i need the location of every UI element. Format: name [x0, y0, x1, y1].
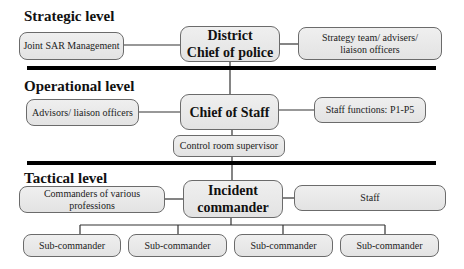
control-room-supervisor-box: Control room supervisor	[173, 135, 285, 157]
strategic-level-title: Strategic level	[24, 8, 114, 24]
district-chief-line1: District	[207, 27, 252, 44]
sub-commander-box-1: Sub-commander	[23, 234, 121, 257]
operational-level-title: Operational level	[24, 78, 134, 94]
incident-commander-line1: Incident	[208, 182, 258, 199]
chief-of-staff-label: Chief of Staff	[189, 104, 269, 121]
advisors-liaison-officers-box: Advisors/ liaison officers	[26, 99, 139, 126]
district-chief-line2: Chief of police	[187, 44, 273, 61]
commanders-various-professions-box: Commanders of various professions	[19, 186, 165, 213]
advisors-liaison-officers-label: Advisors/ liaison officers	[32, 107, 133, 119]
sub-commander-label: Sub-commander	[250, 240, 316, 252]
incident-commander-box: Incident commander	[183, 180, 283, 218]
sub-commander-box-4: Sub-commander	[340, 234, 439, 257]
chief-of-staff-box: Chief of Staff	[180, 94, 279, 130]
sub-commander-label: Sub-commander	[144, 240, 210, 252]
strategy-team-line1: Strategy team/ advisers/	[322, 32, 418, 44]
command-structure-diagram: Strategic level Joint SAR Management Dis…	[0, 0, 464, 269]
joint-sar-management-box: Joint SAR Management	[19, 32, 124, 60]
joint-sar-management-label: Joint SAR Management	[23, 40, 119, 52]
staff-functions-box: Staff functions: P1-P5	[314, 97, 426, 123]
sub-commander-label: Sub-commander	[39, 240, 105, 252]
tactical-level-title: Tactical level	[24, 170, 107, 186]
staff-label: Staff	[360, 192, 379, 204]
sub-commander-box-2: Sub-commander	[128, 234, 227, 257]
incident-commander-line2: commander	[197, 199, 269, 216]
sub-commander-label: Sub-commander	[356, 240, 422, 252]
district-chief-of-police-box: District Chief of police	[180, 26, 280, 62]
strategy-team-line2: liaison officers	[340, 44, 400, 56]
staff-functions-label: Staff functions: P1-P5	[326, 104, 415, 116]
strategy-team-box: Strategy team/ advisers/ liaison officer…	[298, 27, 442, 60]
sub-commander-box-3: Sub-commander	[234, 234, 333, 257]
commanders-various-professions-label: Commanders of various professions	[20, 188, 164, 212]
staff-box: Staff	[294, 185, 446, 211]
control-room-supervisor-label: Control room supervisor	[180, 140, 278, 152]
level-separator-operational-tactical	[27, 161, 436, 165]
level-separator-strategic-operational	[27, 66, 436, 70]
